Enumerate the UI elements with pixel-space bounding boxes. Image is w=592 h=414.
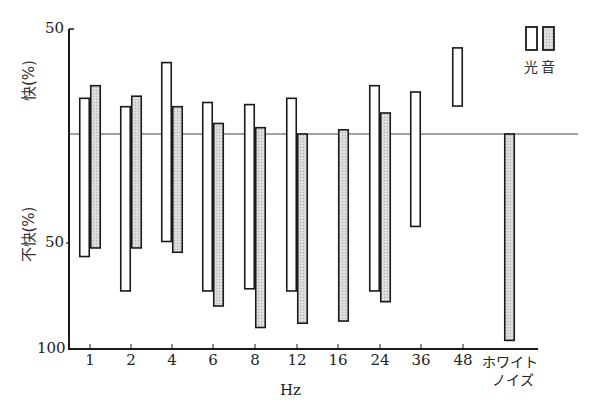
bar-light [80, 98, 90, 256]
bar-light [121, 107, 131, 291]
bar-light [411, 92, 421, 226]
x-axis-label: Hz [280, 381, 301, 399]
x-tick-label: 12 [277, 351, 317, 369]
bar-sound [381, 113, 391, 302]
y-tick-50-bottom: 50 [45, 233, 64, 251]
bar-sound [256, 128, 266, 328]
bar-light [245, 105, 255, 289]
x-tick-white-noise-line1: ホワイト [482, 351, 538, 371]
bar-light [287, 98, 297, 291]
x-tick-label: 2 [111, 351, 151, 369]
x-tick-label: 36 [401, 351, 441, 369]
x-tick-label: 6 [193, 351, 233, 369]
bar-sound [132, 96, 142, 248]
bar-sound [339, 130, 349, 321]
bar-light [203, 103, 213, 291]
bar-sound [298, 134, 308, 323]
legend-label-sound: 音 [541, 56, 555, 76]
bar-light [370, 86, 380, 291]
y-axis-label-pleasant: 快(%) [17, 56, 38, 106]
bar-light [453, 48, 463, 106]
legend-box-sound [543, 27, 554, 50]
legend-box-light [526, 27, 537, 50]
x-tick-label: 1 [70, 351, 110, 369]
y-tick-50-top: 50 [45, 19, 64, 37]
bar-sound [214, 124, 224, 307]
x-tick-label: 16 [318, 351, 358, 369]
bar-sound [173, 107, 183, 253]
bar-sound [91, 86, 101, 248]
bar-sound [505, 134, 515, 340]
chart: 快(%) 不快(%) 50 50 100 124681216243648 ホワイ… [0, 0, 592, 414]
legend-label-light: 光 [524, 56, 538, 76]
y-axis-label-unpleasant: 不快(%) [17, 205, 38, 265]
x-tick-label: 24 [360, 351, 400, 369]
x-tick-white-noise-line2: ノイズ [492, 369, 534, 389]
bar-light [162, 63, 172, 242]
x-tick-label: 8 [235, 351, 275, 369]
x-tick-label: 4 [152, 351, 192, 369]
y-tick-100: 100 [37, 339, 66, 357]
x-tick-label: 48 [443, 351, 483, 369]
